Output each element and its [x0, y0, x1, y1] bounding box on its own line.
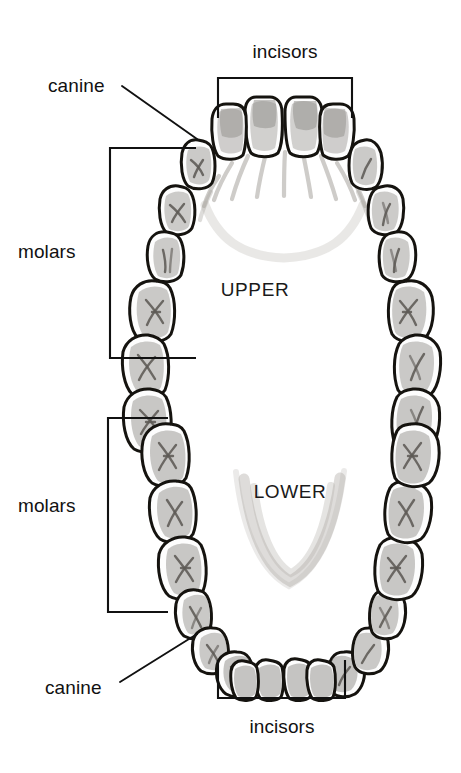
upper-incisor-4: [320, 104, 355, 159]
lower-molar-right-1: [375, 537, 423, 600]
upper-premolar-left-1: [159, 186, 195, 235]
lower-molar-left-2: [149, 481, 196, 543]
upper-arch-group: UPPER: [122, 97, 440, 453]
lower-arch-group: LOWER: [142, 424, 439, 701]
palatal-rugae: [200, 152, 369, 258]
dental-arches-diagram: UPPER: [0, 0, 461, 773]
lower-molar-right-2: [385, 481, 432, 543]
lower-canine-leader-line: [120, 634, 197, 682]
upper-premolar-left-2: [147, 232, 184, 282]
upper-canine-label: canine: [48, 75, 105, 96]
upper-premolar-right-2: [379, 232, 416, 282]
lower-canine-label: canine: [45, 677, 102, 698]
upper-molar-left-1: [130, 281, 175, 342]
lower-incisors-label: incisors: [249, 716, 314, 737]
lower-incisor-4: [307, 660, 336, 701]
lower-molar-left-3: [142, 424, 189, 487]
upper-canine-annotation: canine: [48, 75, 197, 139]
upper-incisor-1: [245, 97, 282, 157]
lower-molars-label: molars: [18, 495, 76, 516]
upper-incisors-label: incisors: [252, 41, 317, 62]
lower-canine-annotation: canine: [45, 634, 197, 698]
upper-premolar-right-1: [368, 186, 404, 235]
lower-arch-label: LOWER: [254, 481, 327, 502]
upper-arch-label: UPPER: [221, 279, 289, 300]
upper-molar-right-1: [388, 281, 433, 342]
upper-canine-leader-line: [122, 86, 197, 139]
upper-canine-right: [349, 140, 382, 190]
upper-incisor-3: [212, 104, 247, 159]
lower-incisor-3: [231, 661, 259, 701]
dental-diagram-svg: UPPER: [0, 0, 461, 773]
upper-incisor-2: [285, 97, 322, 157]
upper-molars-label: molars: [18, 241, 76, 262]
lower-molar-right-3: [392, 424, 439, 487]
